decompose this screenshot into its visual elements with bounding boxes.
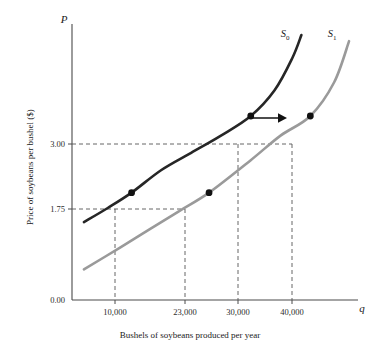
- dashed-guides-group: [72, 144, 292, 300]
- svg-text:S1: S1: [328, 28, 337, 42]
- y-axis-caption: Price of soybeans per bushel ($): [25, 109, 35, 225]
- xtick-label-40000: 40,000: [280, 307, 303, 317]
- curve-label-s0: S0: [281, 28, 290, 42]
- supply-curve-s0: [84, 35, 301, 222]
- xtick-label-30000: 30,000: [226, 307, 249, 317]
- data-point-40000-300[interactable]: [307, 113, 314, 120]
- shift-arrow-head: [278, 113, 287, 123]
- supply-curve-s1: [84, 41, 349, 269]
- chart-canvas: P q: [0, 0, 379, 349]
- y-axis-symbol: P: [60, 13, 68, 25]
- svg-text:S0: S0: [281, 28, 290, 42]
- tick-marks-group: [68, 144, 292, 304]
- supply-shift-chart: P q: [0, 0, 379, 349]
- xtick-label-23000: 23,000: [173, 307, 196, 317]
- curve-label-s0-sub: 0: [286, 34, 290, 42]
- data-point-10000-175[interactable]: [128, 189, 135, 196]
- curve-label-s1: S1: [328, 28, 337, 42]
- data-point-23000-175[interactable]: [206, 189, 213, 196]
- data-point-30000-300[interactable]: [247, 113, 254, 120]
- curve-label-s1-sub: 1: [333, 34, 337, 42]
- ytick-label-000: 0.00: [50, 295, 65, 305]
- shift-arrow-annotation: [252, 113, 287, 123]
- x-axis-caption: Bushels of soybeans produced per year: [120, 330, 261, 340]
- ytick-label-300: 3.00: [50, 139, 65, 149]
- x-axis-symbol: q: [359, 302, 365, 314]
- xtick-label-10000: 10,000: [103, 307, 126, 317]
- ytick-label-175: 1.75: [50, 204, 65, 214]
